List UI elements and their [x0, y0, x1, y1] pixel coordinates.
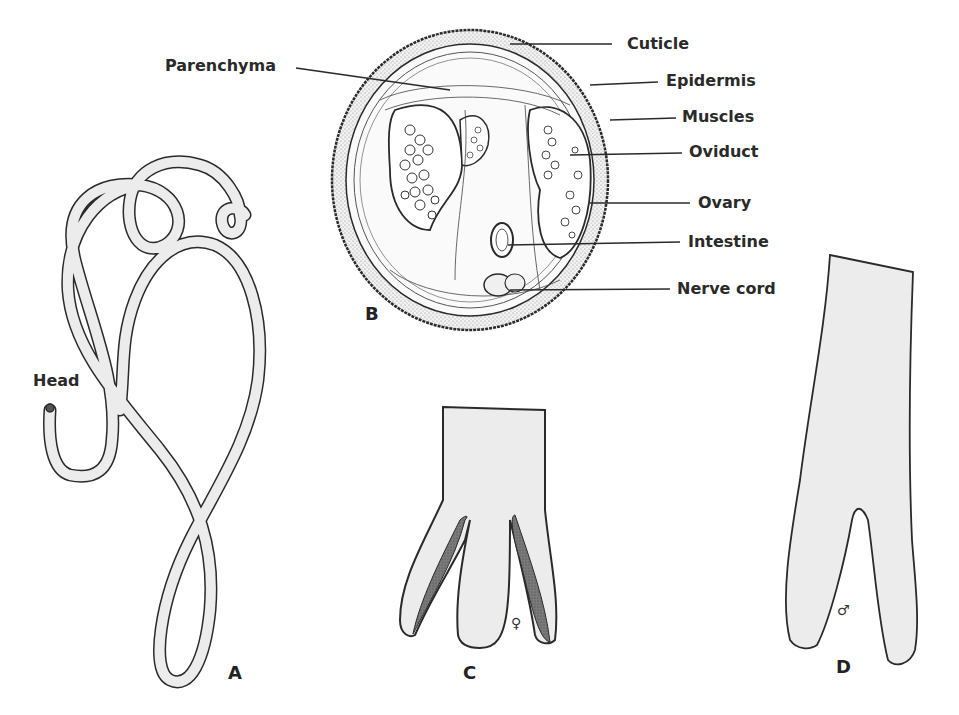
- cross-section-drawing: [332, 30, 608, 330]
- female-symbol: ♀: [511, 616, 521, 630]
- figure-drawings: [0, 0, 959, 715]
- figure: Head A Parenchyma Cuticle Epidermis Musc…: [0, 0, 959, 715]
- label-epidermis: Epidermis: [666, 73, 756, 89]
- label-parenchyma: Parenchyma: [165, 58, 276, 74]
- panel-letter-c: C: [463, 664, 476, 682]
- panel-letter-a: A: [228, 664, 242, 682]
- panel-letter-d: D: [836, 658, 851, 676]
- label-cuticle: Cuticle: [627, 36, 689, 52]
- label-ovary: Ovary: [698, 195, 751, 211]
- label-nerve-cord: Nerve cord: [677, 281, 776, 297]
- label-head: Head: [33, 373, 80, 389]
- worm-whole-body-drawing: [46, 162, 260, 682]
- male-tail-drawing: [786, 255, 917, 664]
- female-tail-drawing: [400, 407, 556, 648]
- panel-letter-b: B: [365, 305, 379, 323]
- worm-head-tip: [46, 404, 54, 412]
- male-symbol: ♂: [837, 603, 850, 617]
- label-muscles: Muscles: [682, 109, 754, 125]
- label-intestine: Intestine: [688, 234, 769, 250]
- label-oviduct: Oviduct: [689, 144, 759, 160]
